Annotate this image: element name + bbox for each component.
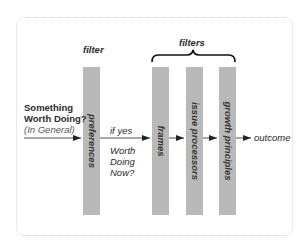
if-yes-label: if yes bbox=[110, 126, 132, 137]
input-line-1: Something bbox=[24, 103, 73, 114]
input-line-2: Worth Doing? bbox=[24, 114, 87, 125]
question-line-2: Doing bbox=[110, 157, 135, 168]
outcome-label: outcome bbox=[254, 133, 290, 144]
question-line-3: Now? bbox=[110, 168, 134, 179]
input-qualifier: (In General) bbox=[24, 125, 75, 136]
filters-brace-icon bbox=[152, 50, 235, 62]
filter-flow-diagram: filter filters preferences frames issue … bbox=[0, 0, 308, 248]
question-line-1: Worth bbox=[110, 146, 135, 157]
